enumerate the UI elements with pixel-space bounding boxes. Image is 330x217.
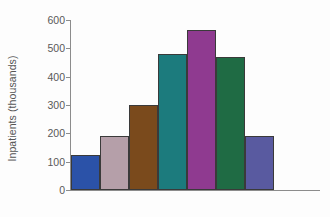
plot-area: 0100200300400500600 bbox=[70, 20, 320, 190]
bar-series bbox=[71, 20, 320, 190]
bar bbox=[71, 155, 100, 190]
bar bbox=[245, 136, 274, 190]
y-tick-label: 500 bbox=[47, 42, 65, 54]
y-tick-mark bbox=[66, 162, 70, 163]
bar bbox=[187, 30, 216, 190]
y-tick-mark bbox=[66, 133, 70, 134]
y-tick-mark bbox=[66, 105, 70, 106]
y-axis-label: Inpatients (thousands) bbox=[0, 0, 24, 217]
x-axis-line bbox=[70, 190, 320, 191]
y-tick-label: 200 bbox=[47, 127, 65, 139]
bar bbox=[129, 105, 158, 190]
y-tick-label: 400 bbox=[47, 71, 65, 83]
y-tick-mark bbox=[66, 190, 70, 191]
y-tick-mark bbox=[66, 77, 70, 78]
y-tick-label: 0 bbox=[59, 184, 65, 196]
y-tick-mark bbox=[66, 48, 70, 49]
bar bbox=[216, 57, 245, 190]
y-tick-mark bbox=[66, 20, 70, 21]
y-tick-label: 600 bbox=[47, 14, 65, 26]
bar bbox=[158, 54, 187, 190]
y-tick-label: 100 bbox=[47, 156, 65, 168]
bar bbox=[100, 136, 129, 190]
bar-chart-figure: Inpatients (thousands) 01002003004005006… bbox=[0, 0, 330, 217]
y-tick-label: 300 bbox=[47, 99, 65, 111]
